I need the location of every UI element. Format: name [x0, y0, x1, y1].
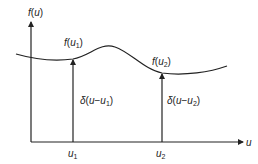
y-axis-label: f(u): [28, 7, 43, 18]
x-axis-label: u: [246, 137, 252, 148]
value-label-u1: f(u1): [64, 37, 83, 49]
diagram-canvas: f(u) u f(u1) f(u2) δ(u−u1) δ(u−u2) u1 u2: [0, 0, 258, 164]
function-curve: [16, 46, 227, 74]
value-label-u2: f(u2): [152, 56, 171, 68]
impulse-label-u1: δ(u−u1): [80, 95, 113, 107]
impulse-label-u2: δ(u−u2): [167, 95, 200, 107]
position-label-u2: u2: [156, 148, 166, 160]
position-label-u1: u1: [68, 148, 78, 160]
